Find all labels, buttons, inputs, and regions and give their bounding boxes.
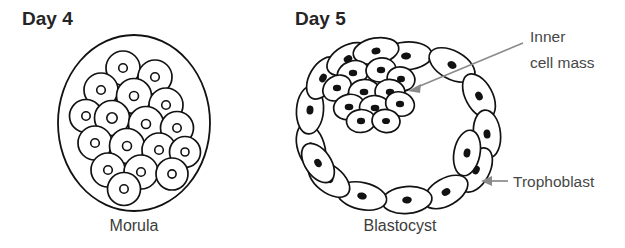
stage-caption-blastocyst: Blastocyst [364,217,437,234]
annotation-label-inner-cell-mass-line1: Inner [530,28,565,45]
stage-caption-morula: Morula [110,217,159,234]
morula-cell [108,173,141,206]
embryo-development-diagram: Day 4 [0,0,625,248]
annotation-label-inner-cell-mass-line2: cell mass [530,54,595,71]
trophoblast-cell [381,184,433,215]
stage-panel-blastocyst: Day 5 [291,8,503,234]
stage-heading-day4: Day 4 [22,8,73,29]
stage-heading-day5: Day 5 [295,8,346,29]
morula-cell [156,158,188,190]
annotation-trophoblast: Trophoblast [481,173,595,190]
stage-panel-morula: Day 4 [22,8,210,234]
diagram-canvas: Day 4 [0,0,625,248]
annotation-label-trophoblast: Trophoblast [513,173,595,190]
